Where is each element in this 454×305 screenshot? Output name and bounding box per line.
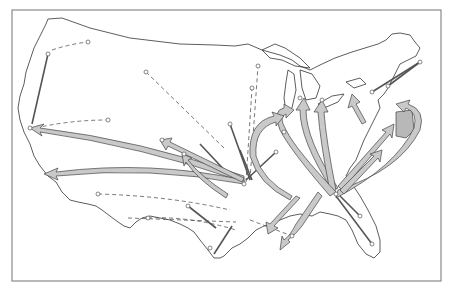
dashed-flow (98, 194, 230, 210)
lake-huron (300, 70, 320, 100)
flow-arrow (336, 196, 372, 244)
flow-arrow (188, 206, 216, 228)
dashed-flow (36, 120, 108, 128)
dashed-flow (148, 218, 236, 230)
lake-ontario (346, 78, 366, 88)
flow-arrow-thick (348, 94, 366, 124)
map-canvas (0, 0, 454, 305)
flow-arrow-thick (280, 192, 322, 250)
flow-arrow (214, 226, 232, 254)
dashed-flow (128, 218, 236, 222)
dashed-flow (146, 72, 224, 148)
flow-arrow-thick (340, 150, 382, 194)
lake-superior (262, 44, 310, 68)
flow-nodes (28, 40, 422, 250)
flow-arrow (372, 62, 420, 92)
flow-map (0, 0, 454, 305)
flow-arrow (32, 54, 48, 124)
dashed-flow (52, 42, 88, 50)
